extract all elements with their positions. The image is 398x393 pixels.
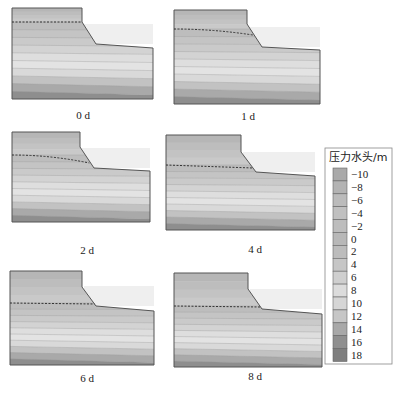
contour-bands — [12, 132, 150, 226]
panel-label: 2 d — [80, 244, 94, 256]
legend-tick-label: −4 — [351, 207, 363, 219]
panel-label: 1 d — [241, 110, 255, 122]
legend-tick-label: 10 — [351, 297, 363, 309]
legend-swatch — [333, 168, 347, 181]
legend-tick-label: 8 — [351, 284, 357, 296]
legend-swatch — [333, 349, 347, 362]
colorbar-legend: 压力水头/m −10−8−6−4−2024681012141618 — [325, 148, 392, 364]
panel-6d: 6 d — [10, 271, 154, 384]
panel-8d: 8 d — [174, 273, 322, 382]
legend-tick-label: 6 — [351, 271, 357, 283]
legend-tick-label: 0 — [351, 233, 357, 245]
legend-tick-label: 4 — [351, 258, 357, 270]
legend-tick-label: −8 — [351, 181, 363, 193]
legend-swatch — [333, 297, 347, 310]
legend-swatch — [333, 271, 347, 284]
legend-swatch — [333, 220, 347, 233]
panel-1d: 1 d — [174, 10, 320, 122]
legend-title: 压力水头/m — [329, 151, 387, 164]
legend-swatch — [333, 194, 347, 207]
panel-2d: 2 d — [12, 132, 150, 256]
legend-tick-label: −6 — [351, 194, 363, 206]
panel-label: 0 d — [76, 109, 90, 121]
panel-label: 6 d — [80, 372, 94, 384]
panels-group: 0 d1 d2 d4 d6 d8 d — [10, 8, 322, 384]
legend-tick-label: −10 — [351, 168, 369, 180]
legend-swatch — [333, 181, 347, 194]
legend-swatch — [333, 233, 347, 246]
panel-0d: 0 d — [12, 8, 153, 121]
background-shade — [84, 286, 154, 306]
legend-tick-label: 18 — [351, 349, 363, 361]
legend-swatch — [333, 323, 347, 336]
legend-swatch — [333, 245, 347, 258]
legend-swatch — [333, 310, 347, 323]
panel-4d: 4 d — [166, 135, 315, 255]
legend-tick-label: −2 — [351, 220, 363, 232]
panel-label: 8 d — [248, 370, 262, 382]
legend-swatch — [333, 207, 347, 220]
legend-swatch — [333, 336, 347, 349]
pressure-head-figure: 0 d1 d2 d4 d6 d8 d 压力水头/m −10−8−6−4−2024… — [0, 0, 398, 393]
legend-swatch — [333, 258, 347, 271]
legend-tick-label: 12 — [351, 310, 362, 322]
legend-swatch — [333, 284, 347, 297]
background-shade — [250, 289, 322, 309]
legend-tick-label: 2 — [351, 245, 357, 257]
legend-tick-label: 16 — [351, 336, 363, 348]
legend-tick-label: 14 — [351, 323, 363, 335]
panel-label: 4 d — [248, 243, 262, 255]
